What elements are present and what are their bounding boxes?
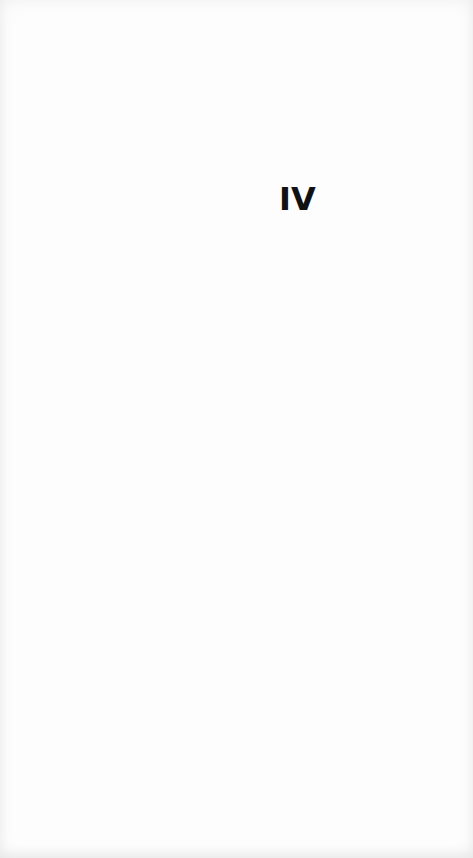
section-numeral: IV xyxy=(279,181,316,217)
document-page: IV xyxy=(0,0,473,858)
